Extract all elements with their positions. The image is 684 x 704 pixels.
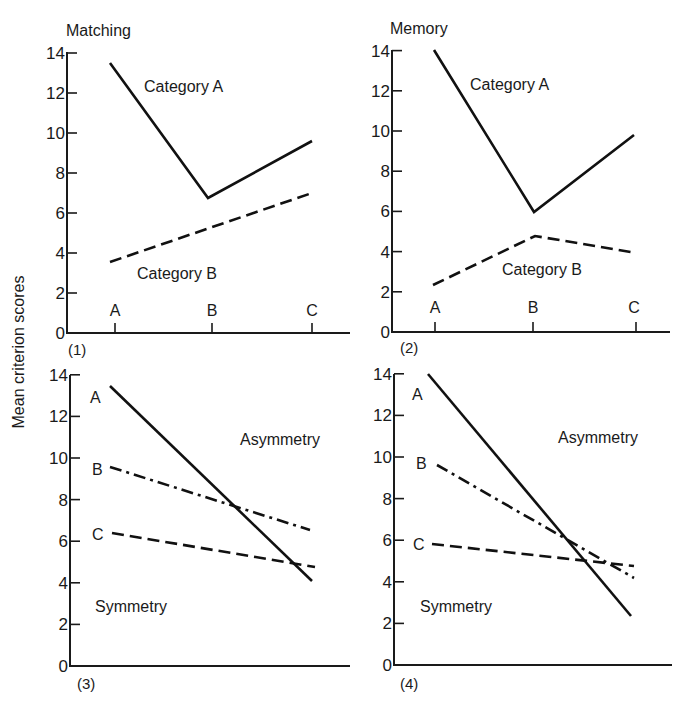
label-category-b: Category B [137,265,217,282]
y-axis: 02468101214 [371,42,402,342]
annotation-asymmetry: Asymmetry [558,429,638,446]
y-tick-label: 6 [56,204,65,223]
y-tick-label: 14 [373,365,392,384]
y-tick-label: 14 [371,42,390,61]
series-c [112,533,315,567]
series-category-b [110,193,312,262]
y-tick-label: 10 [371,122,390,141]
panel-title: Memory [390,20,448,37]
y-tick-label: 0 [56,324,65,343]
y-tick-label: 4 [56,244,65,263]
panel-number: (3) [77,675,95,692]
label-c: C [413,536,425,553]
y-tick-label: 4 [383,573,392,592]
y-tick-label: 2 [381,283,390,302]
y-tick-label: 8 [56,164,65,183]
y-tick-label: 12 [49,407,68,426]
y-tick-label: 10 [46,124,65,143]
panel-1-matching: Matching 02468101214 A B C Category A Ca… [46,22,350,358]
y-axis: 02468101214 [46,44,77,343]
y-tick-label: 6 [59,532,68,551]
y-tick-label: 8 [383,490,392,509]
series-a [428,374,631,616]
panel-number: (4) [400,675,418,692]
y-tick-label: 14 [46,44,65,63]
annotation-symmetry: Symmetry [95,598,167,615]
y-tick-label: 8 [381,162,390,181]
figure: Mean criterion scores Matching 024681012… [0,0,684,704]
label-b: B [416,455,427,472]
panel-number: (2) [400,339,418,356]
x-tick-b: B [528,299,539,316]
y-axis: 02468101214 [373,365,404,675]
x-tick-b: B [207,302,218,319]
series-b [437,465,634,578]
series-category-a [434,50,634,212]
annotation-symmetry: Symmetry [420,598,492,615]
y-tick-label: 8 [59,491,68,510]
y-tick-label: 12 [46,84,65,103]
y-tick-label: 2 [56,284,65,303]
annotation-asymmetry: Asymmetry [240,431,320,448]
panel-2-memory: Memory 02468101214 A B C Category A Cate… [371,20,670,356]
y-tick-label: 4 [59,574,68,593]
series-b [110,467,310,530]
x-tick-c: C [306,302,318,319]
y-tick-label: 6 [381,202,390,221]
x-tick-a: A [430,299,441,316]
panel-title: Matching [66,22,131,39]
label-category-b: Category B [502,261,582,278]
y-tick-label: 4 [381,243,390,262]
y-tick-label: 12 [373,406,392,425]
y-tick-label: 0 [383,656,392,675]
y-tick-label: 14 [49,366,68,385]
y-tick-label: 2 [383,614,392,633]
panel-number: (1) [68,341,86,358]
x-tick-a: A [110,302,121,319]
y-tick-label: 10 [373,448,392,467]
y-tick-label: 0 [381,323,390,342]
label-c: C [92,526,104,543]
y-tick-label: 0 [59,657,68,676]
panel-3: 02468101214 A B C Asymmetry Symmetry (3) [49,366,350,692]
y-tick-label: 12 [371,82,390,101]
y-tick-label: 2 [59,615,68,634]
label-b: B [92,461,103,478]
x-tick-c: C [628,299,640,316]
y-axis: 02468101214 [49,366,80,676]
y-axis-label: Mean criterion scores [10,276,27,429]
series-c [432,544,634,566]
y-tick-label: 10 [49,449,68,468]
label-category-a: Category A [470,76,549,93]
label-category-a: Category A [144,78,223,95]
series-a [110,386,312,581]
y-tick-label: 6 [383,531,392,550]
label-a: A [412,386,423,403]
label-a: A [90,389,101,406]
panel-4: 02468101214 A B C Asymmetry Symmetry (4) [373,365,672,692]
